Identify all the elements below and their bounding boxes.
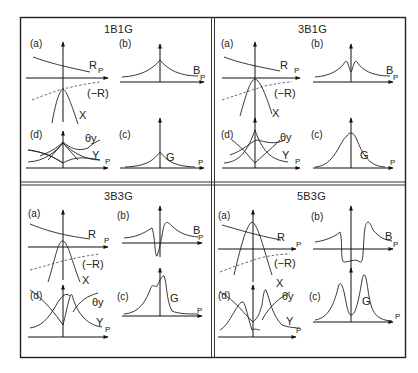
P-axis-label: P: [296, 241, 301, 249]
G-label: G: [360, 150, 369, 161]
subplot-d-label: (d): [30, 130, 42, 140]
G-label: G: [166, 152, 175, 163]
B-label: B: [385, 231, 392, 242]
P-axis-label: P: [198, 234, 203, 242]
R-label: R: [88, 229, 96, 240]
subplot-d-label: (d): [218, 291, 230, 301]
X-label: X: [276, 278, 283, 289]
R-label: R: [89, 60, 97, 71]
theta-y-label: θy: [280, 132, 292, 143]
P-axis-label: P: [393, 241, 398, 249]
R-label: R: [277, 232, 285, 243]
P-axis-label: P: [390, 159, 395, 167]
X-curve: [52, 89, 78, 124]
diagram-canvas: [0, 0, 418, 373]
P-axis-label: P: [395, 313, 400, 321]
panel-5B3G: [218, 206, 393, 337]
P-axis-label: P: [104, 237, 109, 245]
subplot-c-label: (c): [117, 292, 129, 302]
G-label: G: [170, 293, 179, 304]
minus-R-label: (−R): [274, 88, 296, 99]
panel-title: 1B1G: [104, 24, 133, 35]
minus-R-label: (−R): [274, 258, 296, 269]
R-curve: [33, 57, 90, 72]
P-axis-label: P: [295, 158, 300, 166]
theta-y-label: θy: [85, 133, 97, 144]
P-axis-label: P: [197, 307, 202, 315]
R-label: R: [280, 60, 288, 71]
subplot-a-label: (a): [218, 211, 230, 221]
subplot-c-label: (c): [309, 292, 321, 302]
subplot-b-label: (b): [311, 212, 323, 222]
P-axis-label: P: [198, 159, 203, 167]
P-axis-label: P: [393, 74, 398, 82]
Y-label: Y: [92, 150, 99, 161]
P-axis-label: P: [200, 74, 205, 82]
panel-title: 5B3G: [297, 191, 326, 202]
subplot-a-label: (a): [28, 209, 40, 219]
Y-label: Y: [286, 316, 293, 327]
minus-R-label: (−R): [82, 259, 104, 270]
subplot-d-label: (d): [221, 130, 233, 140]
subplot-d-label: (d): [30, 291, 42, 301]
G-label: G: [362, 296, 371, 307]
P-axis-label: P: [296, 327, 301, 335]
subplot-b-label: (b): [119, 39, 131, 49]
panel-title: 3B3G: [104, 191, 133, 202]
P-axis-label: P: [105, 158, 110, 166]
theta-y-curve: [28, 143, 100, 162]
subplot-c-label: (c): [119, 130, 131, 140]
X-label: X: [79, 110, 86, 121]
panel-3B3G: [28, 206, 202, 337]
panel-1B1G: [26, 42, 204, 168]
subplot-c-label: (c): [311, 130, 323, 140]
P-axis-label: P: [98, 67, 103, 75]
subplot-a-label: (a): [221, 39, 233, 49]
Y-label: Y: [96, 317, 103, 328]
P-axis-label: P: [105, 326, 110, 334]
X-label: X: [82, 275, 89, 286]
theta-y-label: θy: [282, 291, 294, 302]
subplot-a-label: (a): [30, 39, 42, 49]
P-axis-label: P: [294, 67, 299, 75]
minus-R-label: (−R): [87, 88, 109, 99]
subplot-b-label: (b): [311, 39, 323, 49]
outer-frame: [21, 18, 406, 358]
theta-y-label: θy: [92, 297, 104, 308]
Y-label: Y: [282, 150, 289, 161]
X-label: X: [272, 108, 279, 119]
panel-title: 3B1G: [298, 24, 327, 35]
subplot-b-label: (b): [117, 211, 129, 221]
